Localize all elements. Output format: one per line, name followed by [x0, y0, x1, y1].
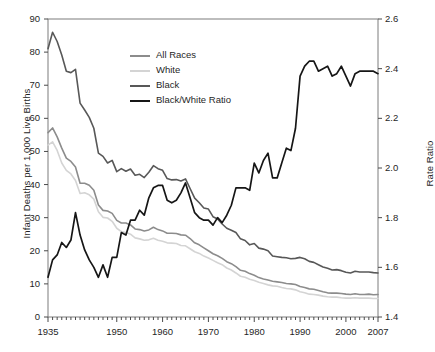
y-axis-right-tick-label: 2.4: [385, 63, 415, 74]
y-axis-left-tick-label: 80: [14, 46, 40, 57]
y-axis-left-tick-label: 20: [14, 245, 40, 256]
y-axis-right-tick-label: 1.8: [385, 212, 415, 223]
y-axis-right-tick-label: 1.6: [385, 261, 415, 272]
legend-swatch: [130, 55, 150, 57]
y-axis-left-tick-label: 70: [14, 79, 40, 90]
legend-swatch: [130, 70, 150, 72]
legend-swatch: [130, 100, 150, 103]
y-axis-right-tick-label: 1.4: [385, 311, 415, 322]
legend-label: Black: [156, 79, 179, 90]
y-axis-left-tick-label: 10: [14, 278, 40, 289]
legend-label: All Races: [156, 49, 196, 60]
x-axis-tick-label: 1990: [280, 326, 320, 337]
y-axis-right-tick-label: 2.0: [385, 162, 415, 173]
x-axis-tick-label: 1980: [234, 326, 274, 337]
x-axis-tick-label: 1935: [28, 326, 68, 337]
legend-label: White: [156, 64, 180, 75]
y-axis-left-tick-label: 90: [14, 13, 40, 24]
x-axis-tick-label: 1950: [97, 326, 137, 337]
y-axis-left-tick-label: 60: [14, 112, 40, 123]
y-axis-left-tick-label: 30: [14, 212, 40, 223]
legend-swatch: [130, 85, 150, 87]
y-axis-left-tick-label: 0: [14, 311, 40, 322]
x-axis-tick-label: 2007: [358, 326, 398, 337]
y-axis-right-title: Rate Ratio: [424, 89, 435, 239]
x-axis-tick-label: 1970: [188, 326, 228, 337]
plot-frame: [48, 19, 378, 317]
y-axis-right-tick-label: 2.2: [385, 112, 415, 123]
x-axis-tick-label: 1960: [143, 326, 183, 337]
y-axis-right-tick-label: 2.6: [385, 13, 415, 24]
y-axis-left-tick-label: 50: [14, 145, 40, 156]
legend-label: Black/White Ratio: [156, 94, 231, 105]
y-axis-left-tick-label: 40: [14, 179, 40, 190]
